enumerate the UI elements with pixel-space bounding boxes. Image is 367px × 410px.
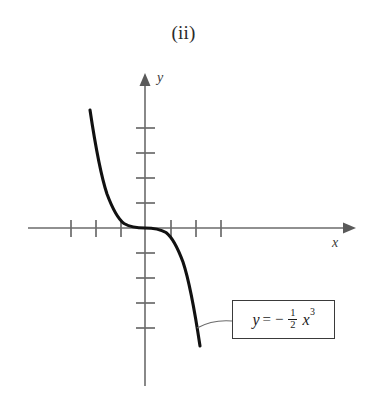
x-axis-label: x [332, 235, 338, 251]
equation-minus-sign: − [275, 311, 283, 328]
x-axis-arrowhead [343, 223, 356, 234]
equation-equals-sign: = [263, 311, 271, 328]
equation-variable-term: x3 [302, 310, 314, 329]
y-axis-arrowhead [140, 73, 151, 86]
graph-canvas [0, 0, 367, 410]
fraction-numerator: 1 [290, 308, 295, 319]
equation-expression: y = − 1 2 x3 [252, 308, 314, 331]
equation-callout-box: y = − 1 2 x3 [232, 300, 335, 339]
equation-variable: x [302, 311, 309, 328]
y-axis-label: y [157, 70, 163, 86]
leader-line [197, 321, 232, 328]
figure-page: (ii) [0, 0, 367, 410]
equation-fraction-one-half: 1 2 [288, 308, 297, 331]
fraction-denominator: 2 [290, 320, 295, 331]
equation-lhs: y [252, 311, 259, 329]
equation-exponent: 3 [310, 306, 315, 317]
